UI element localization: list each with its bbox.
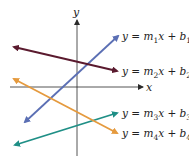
line-family-diagram: x y y = m1x + b1y = m2x + b2y = m3x + b3… [0, 0, 189, 160]
lines [14, 36, 118, 145]
equation-label-4: y = m4x + b4 [121, 127, 189, 142]
equation-labels: y = m1x + b1y = m2x + b2y = m3x + b3y = … [121, 30, 189, 142]
equation-label-1: y = m1x + b1 [121, 30, 189, 45]
x-axis-label: x [146, 81, 153, 94]
y-axis-label: y [72, 6, 80, 19]
equation-label-3: y = m3x + b3 [121, 107, 189, 122]
equation-label-2: y = m2x + b2 [121, 65, 189, 80]
